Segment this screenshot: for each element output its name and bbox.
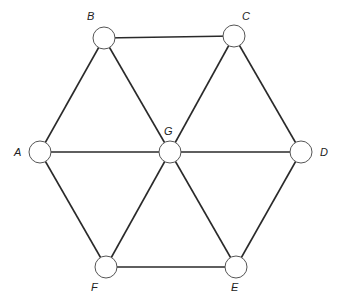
edge-c-d (234, 36, 301, 152)
edge-f-a (40, 152, 106, 267)
node-label-g: G (164, 125, 173, 137)
graph-diagram: ABCDEFG (0, 0, 345, 303)
node-label-a: A (13, 146, 21, 158)
edge-g-b (104, 38, 170, 152)
node-label-f: F (91, 281, 99, 293)
edge-b-c (104, 36, 234, 38)
node-a (29, 141, 51, 163)
node-e (225, 256, 247, 278)
node-b (93, 27, 115, 49)
node-label-d: D (320, 146, 328, 158)
node-d (290, 141, 312, 163)
edge-g-f (106, 152, 170, 267)
node-g (159, 141, 181, 163)
node-label-b: B (87, 10, 94, 22)
edge-g-e (170, 152, 236, 267)
edge-g-c (170, 36, 234, 152)
node-c (223, 25, 245, 47)
edge-d-e (236, 152, 301, 267)
node-f (95, 256, 117, 278)
edge-a-b (40, 38, 104, 152)
node-label-e: E (231, 281, 239, 293)
node-label-c: C (242, 10, 250, 22)
